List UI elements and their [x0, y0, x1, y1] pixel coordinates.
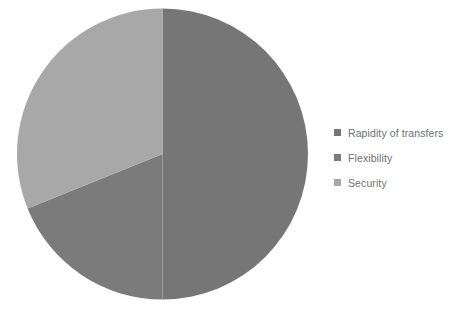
- legend-swatch-icon: [334, 129, 341, 136]
- legend-item-rapidity-of-transfers[interactable]: Rapidity of transfers: [334, 120, 466, 145]
- legend-item-security[interactable]: Security: [334, 170, 466, 195]
- legend-item-flexibility[interactable]: Flexibility: [334, 145, 466, 170]
- legend-item-label: Security: [348, 177, 387, 189]
- legend-item-label: Flexibility: [348, 152, 392, 164]
- legend-item-label: Rapidity of transfers: [348, 127, 443, 139]
- pie-chart: Rapidity of transfers Flexibility Securi…: [0, 0, 470, 313]
- chart-legend: Rapidity of transfers Flexibility Securi…: [334, 120, 466, 195]
- pie-slice[interactable]: [163, 9, 309, 300]
- legend-swatch-icon: [334, 154, 341, 161]
- legend-swatch-icon: [334, 179, 341, 186]
- pie-graphic: [17, 8, 308, 300]
- pie-slice-group: [17, 9, 308, 300]
- pie-svg: [17, 8, 308, 300]
